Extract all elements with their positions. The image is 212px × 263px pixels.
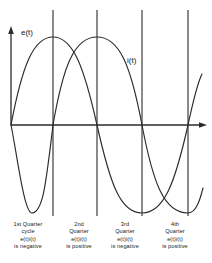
quarter-2-polarity: is positive bbox=[56, 243, 102, 250]
quarter-4-ordinal: 4th bbox=[150, 221, 200, 228]
quarter-2-ordinal: 2nd bbox=[56, 221, 102, 228]
amplitude-axis-arrow-icon bbox=[8, 26, 14, 34]
quarter-caption-1: 1st Quarter cycle e(t)i(t) is negative bbox=[0, 221, 56, 263]
quarter-4-polarity: is positive bbox=[150, 243, 200, 250]
current-curve-label: i(t) bbox=[127, 57, 136, 65]
quarter-caption-2: 2nd Quarter e(t)i(t) is positive bbox=[56, 221, 102, 263]
quarter-3-polarity: is negative bbox=[102, 243, 148, 250]
quarter-1-polarity: is negative bbox=[0, 243, 56, 250]
time-axis bbox=[11, 122, 207, 128]
quarter-divider-lines bbox=[53, 10, 188, 216]
quarter-1-product: e(t)i(t) bbox=[0, 236, 56, 243]
quarter-2-subtitle: Quarter bbox=[56, 228, 102, 235]
quarter-caption-4: 4th Quarter e(t)i(t) is positive bbox=[150, 221, 200, 263]
amplitude-axis bbox=[8, 26, 14, 125]
quarter-2-product: e(t)i(t) bbox=[56, 236, 102, 243]
quarter-3-subtitle: Quarter bbox=[102, 228, 148, 235]
quarter-4-subtitle: Quarter bbox=[150, 228, 200, 235]
quarter-4-product: e(t)i(t) bbox=[150, 236, 200, 243]
quarter-1-subtitle: cycle bbox=[0, 228, 56, 235]
time-axis-arrow-icon bbox=[199, 122, 207, 128]
voltage-curve-label: e(t) bbox=[21, 29, 33, 37]
quarter-caption-3: 3rd Quarter e(t)i(t) is negative bbox=[102, 221, 148, 263]
quarter-captions-row: 1st Quarter cycle e(t)i(t) is negative 2… bbox=[0, 221, 212, 263]
quarter-1-ordinal: 1st Quarter bbox=[0, 221, 56, 228]
quarter-3-ordinal: 3rd bbox=[102, 221, 148, 228]
power-polarity-figure: e(t) i(t) 1st Quarter cycle e(t)i(t) is … bbox=[0, 0, 212, 263]
quarter-3-product: e(t)i(t) bbox=[102, 236, 148, 243]
